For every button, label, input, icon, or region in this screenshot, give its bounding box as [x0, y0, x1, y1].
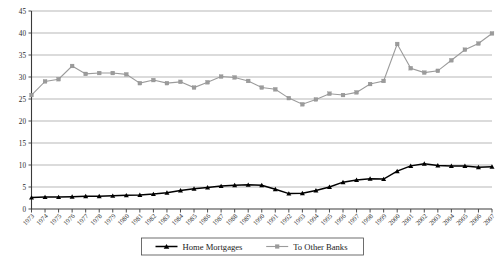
- chart-container: 051015202530354045 197319741975197619771…: [0, 0, 497, 261]
- data-point-marker: [409, 66, 413, 70]
- x-axis-tick-label: 1991: [265, 212, 279, 226]
- y-axis-tick-label: 45: [19, 8, 27, 16]
- data-point-marker: [287, 96, 291, 100]
- x-axis-tick-label: 1973: [21, 212, 36, 227]
- x-axis-tick-label: 2001: [400, 212, 414, 226]
- x-axis-tick-label: 1988: [224, 212, 239, 227]
- data-point-marker: [463, 48, 467, 52]
- gridlines-group: [32, 11, 493, 187]
- x-axis-tick-label: 1983: [157, 212, 172, 227]
- data-point-marker: [368, 82, 372, 86]
- x-axis-tick-label: 1990: [251, 212, 266, 227]
- y-axis-tick-label: 30: [19, 74, 27, 82]
- data-point-marker: [382, 79, 386, 83]
- x-axis-tick-label: 1989: [238, 212, 253, 227]
- data-point-marker: [30, 93, 34, 97]
- data-point-marker: [355, 91, 359, 95]
- y-axis-tick-label: 15: [19, 140, 27, 148]
- x-axis-tick-label: 1979: [102, 212, 117, 227]
- x-axis-tick-label: 1997: [346, 212, 361, 227]
- data-point-marker: [490, 32, 494, 36]
- x-axis-tick-label: 2000: [387, 212, 402, 227]
- data-point-marker: [477, 42, 481, 46]
- x-axis-tick-label: 1996: [333, 212, 348, 227]
- data-point-marker: [219, 75, 223, 79]
- data-point-marker: [151, 78, 155, 82]
- x-axis-tick-label: 2002: [414, 212, 428, 226]
- data-point-marker: [260, 86, 264, 90]
- data-point-marker: [328, 92, 332, 96]
- data-point-marker: [70, 64, 74, 68]
- x-axis-tick-label: 2006: [468, 212, 483, 227]
- x-axis-tick-label: 2007: [482, 212, 497, 227]
- y-axis-tick-labels: 051015202530354045: [19, 8, 27, 214]
- data-point-marker: [395, 42, 399, 46]
- y-axis-tick-label: 5: [22, 184, 26, 192]
- x-axis-tick-label: 2003: [427, 212, 442, 227]
- y-axis-tick-label: 35: [19, 52, 27, 60]
- legend-marker: [275, 244, 279, 248]
- data-point-marker: [246, 79, 250, 83]
- data-point-marker: [449, 58, 453, 62]
- x-axis-tick-label: 1999: [373, 212, 388, 227]
- x-axis-tick-label: 1977: [75, 212, 90, 227]
- data-point-marker: [314, 98, 318, 102]
- x-axis-tick-label: 1998: [360, 212, 375, 227]
- data-point-marker: [341, 93, 345, 97]
- data-point-marker: [84, 72, 88, 76]
- legend-label: To Other Banks: [293, 242, 348, 252]
- data-point-marker: [124, 72, 128, 76]
- data-point-marker: [206, 80, 210, 84]
- x-axis-tick-label: 1985: [184, 212, 199, 227]
- data-point-marker: [436, 69, 440, 73]
- data-point-marker: [138, 81, 142, 85]
- data-point-marker: [300, 102, 304, 106]
- x-axis-tick-label: 1994: [306, 212, 321, 227]
- line-chart: 051015202530354045 197319741975197619771…: [0, 0, 497, 261]
- data-point-marker: [97, 71, 101, 75]
- x-axis-tick-label: 1980: [116, 212, 131, 227]
- y-axis-tick-label: 40: [19, 30, 27, 38]
- y-axis-tick-label: 25: [19, 96, 27, 104]
- x-axis-tick-label: 1987: [211, 212, 226, 227]
- x-axis-tick-label: 1975: [48, 212, 63, 227]
- x-axis-tick-label: 1981: [129, 212, 143, 226]
- data-point-marker: [273, 87, 277, 91]
- y-axis-tick-label: 10: [19, 162, 27, 170]
- x-axis-tick-label: 1974: [35, 212, 50, 227]
- series-home-mortgages: [29, 161, 495, 199]
- x-axis-tick-label: 1984: [170, 212, 185, 227]
- x-axis-tick-label: 1976: [62, 212, 77, 227]
- x-axis-tick-label: 1995: [319, 212, 334, 227]
- x-axis-tick-label: 1992: [278, 212, 292, 226]
- series-line: [32, 164, 493, 198]
- x-axis-tick-label: 2004: [441, 212, 456, 227]
- chart-legend: Home MortgagesTo Other Banks: [142, 238, 364, 255]
- x-axis-tick-label: 1986: [197, 212, 212, 227]
- x-axis-tick-labels: 1973197419751976197719781979198019811982…: [21, 212, 496, 227]
- x-axis-tick-label: 2005: [455, 212, 470, 227]
- x-axis-tick-label: 1982: [143, 212, 157, 226]
- data-point-marker: [233, 76, 237, 80]
- data-point-marker: [43, 80, 47, 84]
- data-point-marker: [111, 71, 115, 75]
- series-to-other-banks: [30, 32, 494, 107]
- data-point-marker: [192, 86, 196, 90]
- data-point-marker: [165, 81, 169, 85]
- data-point-marker: [422, 71, 426, 75]
- legend-label: Home Mortgages: [183, 242, 244, 252]
- x-axis-tick-label: 1978: [89, 212, 104, 227]
- y-axis-tick-label: 0: [22, 206, 26, 214]
- x-axis-tick-label: 1993: [292, 212, 307, 227]
- data-point-marker: [179, 80, 183, 84]
- y-axis-tick-label: 20: [19, 118, 27, 126]
- data-point-marker: [57, 77, 61, 81]
- series-line: [32, 33, 493, 104]
